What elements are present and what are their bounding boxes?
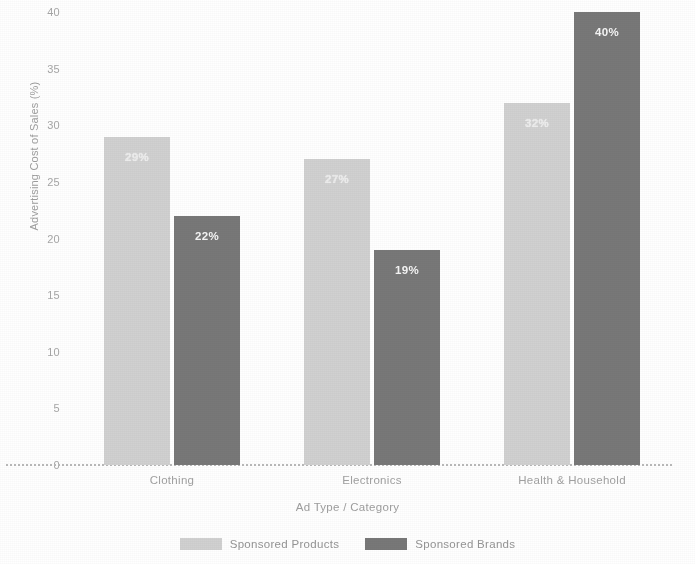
chart-legend: Sponsored ProductsSponsored Brands <box>0 538 695 550</box>
bar-value-label: 19% <box>374 264 440 276</box>
y-axis-tick-label: 10 <box>20 346 60 358</box>
y-axis-tick-label: 30 <box>20 119 60 131</box>
legend-label: Sponsored Brands <box>415 538 515 550</box>
bar[interactable]: 29% <box>104 137 170 465</box>
y-axis-tick-label: 20 <box>20 233 60 245</box>
bar-value-label: 27% <box>304 173 370 185</box>
bar-value-label: 40% <box>574 26 640 38</box>
legend-swatch <box>180 538 222 550</box>
legend-item[interactable]: Sponsored Brands <box>365 538 515 550</box>
bar-value-label: 32% <box>504 117 570 129</box>
bar-chart: Advertising Cost of Sales (%) 0510152025… <box>0 0 695 564</box>
bar-value-label: 22% <box>174 230 240 242</box>
x-axis-category-label: Electronics <box>342 474 402 486</box>
x-axis-category-label: Clothing <box>150 474 195 486</box>
legend-label: Sponsored Products <box>230 538 340 550</box>
plot-area: 29%22%27%19%32%40% <box>72 12 672 465</box>
bar-group: 27%19% <box>304 12 440 465</box>
bar[interactable]: 19% <box>374 250 440 465</box>
bar-group: 29%22% <box>104 12 240 465</box>
bar-value-label: 29% <box>104 151 170 163</box>
y-axis-tick-label: 15 <box>20 289 60 301</box>
bar[interactable]: 40% <box>574 12 640 465</box>
bar[interactable]: 32% <box>504 103 570 465</box>
x-axis-title: Ad Type / Category <box>0 501 695 513</box>
y-axis-tick-label: 40 <box>20 6 60 18</box>
y-axis-tick-label: 35 <box>20 63 60 75</box>
y-axis-tick-label: 5 <box>20 402 60 414</box>
bar[interactable]: 27% <box>304 159 370 465</box>
bar[interactable]: 22% <box>174 216 240 465</box>
x-axis-category-label: Health & Household <box>518 474 626 486</box>
legend-swatch <box>365 538 407 550</box>
y-axis-tick-label: 25 <box>20 176 60 188</box>
bar-group: 32%40% <box>504 12 640 465</box>
legend-item[interactable]: Sponsored Products <box>180 538 340 550</box>
